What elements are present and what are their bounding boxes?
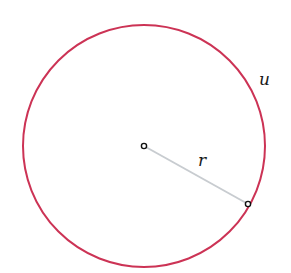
circle-diagram: r u [0,0,291,273]
center-point [141,143,146,148]
radius-label: r [198,150,207,170]
edge-point [245,201,250,206]
circle-label: u [259,69,270,89]
radius-segment [144,146,248,204]
